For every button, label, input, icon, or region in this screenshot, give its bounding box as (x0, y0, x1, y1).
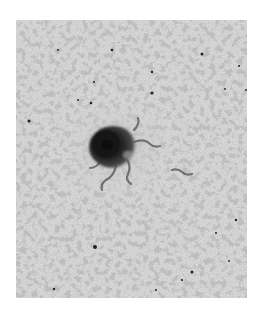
micrograph-image (16, 20, 247, 298)
micrograph-svg (16, 20, 247, 298)
central-particle (89, 126, 137, 168)
